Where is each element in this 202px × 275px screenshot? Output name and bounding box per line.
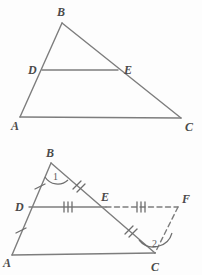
vertex-label-e: E xyxy=(123,63,132,77)
triangle-abc-canvas: A B C D E xyxy=(0,0,202,135)
vertex-label-e: E xyxy=(100,190,109,204)
vertex-label-c: C xyxy=(185,120,194,134)
vertex-label-c: C xyxy=(151,260,160,274)
figure-triangle-abc: A B C D E xyxy=(0,0,202,135)
vertex-label-a: A xyxy=(10,119,19,133)
vertex-label-d: D xyxy=(27,63,37,77)
figure-triangle-abc-extended: A B C D E F 1 2 xyxy=(0,135,202,275)
diagram-page: A B C D E xyxy=(0,0,202,275)
angle-label-2: 2 xyxy=(152,238,157,249)
vertex-label-b: B xyxy=(56,5,65,19)
vertex-label-b: B xyxy=(45,146,54,160)
segment-ac xyxy=(12,253,155,255)
triangle-abc-extended-canvas: A B C D E F 1 2 xyxy=(0,135,202,275)
angle-label-1: 1 xyxy=(53,171,58,182)
segment-bc xyxy=(51,163,155,253)
vertex-label-f: F xyxy=(181,192,190,206)
segment-ac xyxy=(20,117,181,118)
vertex-label-d: D xyxy=(14,200,24,214)
vertex-label-a: A xyxy=(2,256,11,270)
